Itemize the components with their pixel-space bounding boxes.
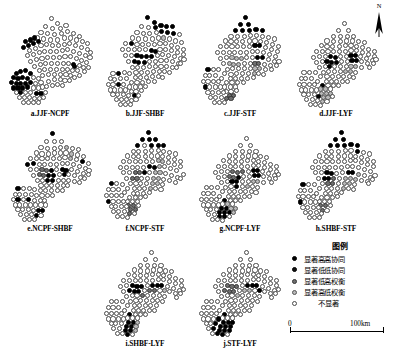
map-point-hh	[147, 137, 152, 142]
map-point-ns	[233, 278, 238, 283]
map-point-ns	[61, 61, 66, 66]
map-point-ns	[207, 84, 212, 89]
map-point-ns	[48, 49, 53, 54]
legend-label-lh: 显著低高权衡	[304, 276, 345, 286]
map-point-hh	[246, 22, 251, 27]
map-point-hh	[145, 15, 150, 20]
map-point-ns	[121, 170, 126, 175]
map-point-ns	[123, 53, 128, 58]
map-point-ns	[85, 41, 90, 46]
map-point-ns	[227, 267, 232, 272]
map-point-ns	[253, 190, 258, 195]
panel-label-i: i.SHBF-LYF	[97, 339, 193, 348]
map-point-hh	[243, 15, 248, 20]
map-point-ns	[312, 182, 317, 187]
map-plot-b	[97, 10, 193, 112]
map-panel-c: c.JJF-STF	[192, 10, 288, 128]
map-point-ns	[340, 170, 345, 175]
map-point-ns	[128, 181, 133, 186]
map-point-ns	[44, 139, 49, 144]
map-point-ns	[269, 67, 274, 72]
map-point-hl	[353, 64, 358, 69]
map-point-ns	[143, 194, 148, 199]
map-point-ns	[17, 192, 22, 197]
map-point-ns	[127, 170, 132, 175]
map-point-ns	[209, 185, 214, 190]
map-point-ns	[52, 150, 57, 155]
legend-title: 图例	[286, 240, 394, 251]
map-point-ns	[132, 47, 137, 52]
map-point-ns	[220, 189, 225, 194]
map-point-ns	[130, 35, 135, 40]
map-point-ns	[250, 55, 255, 60]
map-point-ns	[120, 299, 125, 304]
map-point-ns	[218, 84, 223, 89]
scale-bar-end-label: 100km	[350, 319, 370, 328]
map-point-ns	[154, 30, 159, 35]
map-point-ns	[72, 173, 77, 178]
map-point-ns	[143, 312, 148, 317]
map-point-ns	[125, 303, 130, 308]
map-point-ns	[301, 82, 306, 87]
map-point-ns	[160, 299, 165, 304]
map-point-ns	[173, 180, 178, 185]
map-point-ns	[110, 187, 115, 192]
map-point-ns	[34, 57, 39, 62]
legend-label-hh: 显著高高协同	[304, 254, 345, 264]
map-point-ns	[58, 145, 63, 150]
map-point-ns	[307, 70, 312, 75]
map-point-hh	[153, 137, 158, 142]
map-point-ns	[238, 50, 243, 55]
map-point-ns	[260, 34, 265, 39]
map-point-ns	[251, 75, 256, 80]
legend-marker-ll	[286, 264, 304, 275]
map-point-ns	[138, 278, 143, 283]
map-point-ns	[43, 24, 48, 29]
map-point-ns	[301, 70, 306, 75]
map-panel-d: d.JJF-LYF	[288, 10, 384, 128]
map-point-ns	[82, 176, 87, 181]
map-point-ns	[74, 37, 79, 42]
map-point-ns	[343, 148, 348, 153]
map-point-hl	[157, 170, 162, 175]
map-plot-i	[97, 240, 193, 342]
map-point-ns	[204, 185, 209, 190]
map-point-ns	[65, 29, 70, 34]
map-plot-d	[288, 10, 384, 112]
map-point-ns	[48, 162, 53, 167]
map-point-ns	[44, 84, 49, 89]
map-point-ns	[33, 202, 38, 207]
map-point-ns	[143, 36, 148, 41]
map-point-ns	[335, 194, 340, 199]
map-panel-i: i.SHBF-LYF	[97, 240, 193, 357]
map-point-ns	[65, 161, 70, 166]
map-point-ns	[233, 149, 238, 154]
map-point-ns	[146, 79, 151, 84]
map-point-ns	[272, 36, 277, 41]
map-point-ns	[345, 79, 350, 84]
map-point-ns	[218, 44, 223, 49]
map-point-ns	[65, 47, 70, 52]
map-point-ns	[45, 146, 50, 151]
map-point-ns	[220, 303, 225, 308]
map-point-ns	[209, 299, 214, 304]
map-point-ns	[161, 149, 166, 154]
map-point-hh	[159, 29, 164, 34]
map-point-ns	[38, 43, 43, 48]
map-point-hh	[158, 23, 163, 28]
map-point-hh	[257, 43, 262, 48]
filled-black-circle-icon	[292, 256, 297, 261]
map-point-ns	[50, 43, 55, 48]
map-point-ns	[219, 180, 224, 185]
map-point-ns	[207, 73, 212, 78]
map-point-ns	[116, 187, 121, 192]
map-panel-a: a.JJF-NCPF	[2, 10, 98, 128]
legend-label-hl: 显著高低权衡	[304, 287, 345, 297]
map-point-hh	[153, 25, 158, 30]
map-point-ns	[109, 299, 114, 304]
map-point-ns	[276, 59, 281, 64]
map-point-ns	[300, 194, 305, 199]
map-point-ns	[153, 186, 158, 191]
map-point-hh	[165, 30, 170, 35]
map-point-ns	[247, 194, 252, 199]
